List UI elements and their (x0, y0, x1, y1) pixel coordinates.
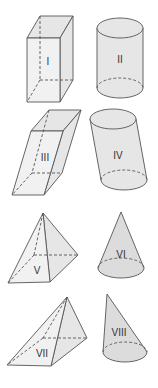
label-ii: II (117, 54, 123, 65)
cylinder-iv-top (90, 109, 136, 129)
cylinder-ii-top (97, 18, 143, 38)
label-iv: IV (113, 150, 123, 161)
label-vii: VII (36, 348, 48, 359)
label-i: I (47, 56, 50, 67)
label-iii: III (41, 152, 49, 163)
shape-i-right-prism: I (27, 16, 73, 102)
label-v: V (34, 265, 41, 276)
shape-v-right-pyramid: V (8, 213, 78, 283)
label-viii: VIII (111, 327, 126, 338)
shape-viii-oblique-cone: VIII (103, 294, 147, 362)
pyramid-v-front-face (8, 213, 50, 283)
prism-i-front-face (27, 38, 60, 102)
shape-vi-right-cone: VI (98, 212, 144, 278)
shape-ii-right-cylinder: II (97, 18, 143, 98)
label-vi: VI (116, 249, 125, 260)
solids-diagram: I II III IV V VI (0, 0, 158, 388)
cone-vi-body (98, 212, 144, 278)
shape-iv-oblique-cylinder: IV (90, 109, 147, 190)
shape-vii-oblique-pyramid: VII (7, 297, 87, 366)
shape-iii-oblique-prism: III (12, 110, 81, 195)
